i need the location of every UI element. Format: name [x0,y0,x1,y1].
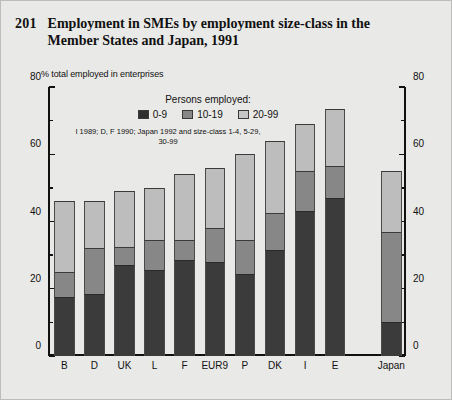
bar-segment-d-20-99 [84,201,105,248]
bar-segment-d-0-9 [84,294,105,356]
figure-title-text: Employment in SMEs by employment size-cl… [48,15,423,49]
legend: Persons employed: 0-910-1920-99 [93,94,323,120]
bar-dk [265,141,286,356]
legend-swatch-0-9 [138,110,149,119]
bar-segment-e-10-19 [325,166,346,198]
bar-l [144,188,165,356]
legend-heading: Persons employed: [93,94,323,105]
bar-segment-eur9-10-19 [205,228,226,262]
bar-e [325,109,346,356]
y-tick-label-left-60: 60 [30,139,41,149]
bar-d [84,201,105,356]
legend-swatch-10-19 [182,110,193,119]
legend-item-0-9: 0-9 [138,109,167,120]
bar-segment-japan-20-99 [381,171,402,232]
legend-items: 0-910-1920-99 [93,109,323,120]
figure-page: 201 Employment in SMEs by employment siz… [0,0,452,400]
bar-segment-eur9-20-99 [205,168,226,229]
bar-segment-dk-10-19 [265,213,286,250]
y-tick-label-right-20: 20 [413,274,424,284]
legend-swatch-20-99 [238,110,249,119]
y-tick-label-right-60: 60 [413,139,424,149]
legend-item-10-19: 10-19 [182,109,223,120]
bar-segment-p-0-9 [235,274,256,356]
bar-b [54,201,75,356]
bar-segment-b-10-19 [54,272,75,297]
bar-segment-eur9-0-9 [205,262,226,356]
bar-segment-uk-10-19 [114,247,135,265]
bar-segment-i-0-9 [295,211,316,356]
bar-segment-l-20-99 [144,188,165,240]
bar-p [235,154,256,356]
y-tick-label-left-0: 0 [35,341,41,351]
legend-label-20-99: 20-99 [253,109,279,120]
y-tick-label-left-20: 20 [30,274,41,284]
bar-segment-f-0-9 [174,260,195,356]
y-tick-label-left-80: 80 [30,72,41,82]
bar-segment-japan-0-9 [381,322,402,356]
bar-f [174,174,195,356]
bar-i [295,124,316,356]
legend-label-0-9: 0-9 [153,109,167,120]
bar-segment-b-20-99 [54,201,75,272]
bar-segment-p-10-19 [235,240,256,274]
figure-number: 201 [15,15,37,32]
bar-segment-f-20-99 [174,174,195,240]
x-axis-label-e: E [316,360,355,371]
bar-segment-p-20-99 [235,154,256,240]
bar-segment-i-10-19 [295,171,316,211]
y-axis-title: % total employed in enterprises [41,69,163,79]
bar-segment-dk-0-9 [265,250,286,356]
bar-segment-uk-0-9 [114,265,135,356]
bar-segment-l-10-19 [144,240,165,270]
bar-eur9 [205,168,226,356]
bar-segment-i-20-99 [295,124,316,171]
bar-segment-e-20-99 [325,109,346,166]
y-tick-label-right-0: 0 [413,341,419,351]
bar-segment-l-0-9 [144,270,165,356]
x-axis-label-japan: Japan [372,360,411,371]
bar-segment-japan-10-19 [381,232,402,323]
bar-segment-b-0-9 [54,297,75,356]
bar-uk [114,191,135,356]
bar-segment-dk-20-99 [265,141,286,213]
legend-label-10-19: 10-19 [197,109,223,120]
figure-title: 201 Employment in SMEs by employment siz… [15,15,435,49]
y-tick-label-left-40: 40 [30,207,41,217]
bar-segment-uk-20-99 [114,191,135,246]
legend-item-20-99: 20-99 [238,109,279,120]
bar-segment-f-10-19 [174,240,195,260]
bar-segment-d-10-19 [84,248,105,293]
bar-japan [381,171,402,356]
y-tick-label-right-40: 40 [413,207,424,217]
y-tick-label-right-80: 80 [413,72,424,82]
bar-segment-e-0-9 [325,198,346,356]
footnote: I 1989; D, F 1990; Japan 1992 and size-c… [73,127,263,147]
